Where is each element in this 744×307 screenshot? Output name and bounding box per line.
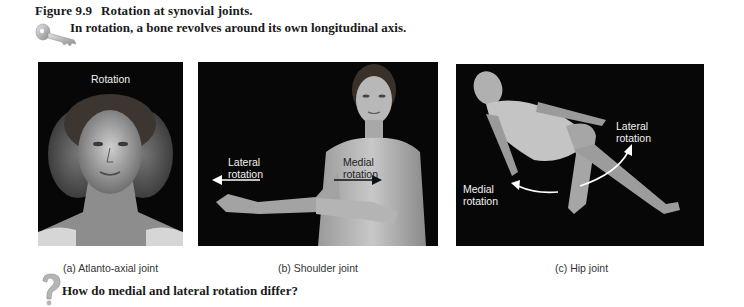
- key-point-text: In rotation, a bone revolves around its …: [70, 20, 406, 36]
- panel-hip-photo: Lateral rotation Medial rotation: [456, 64, 704, 246]
- medial-arrow-icon: [511, 180, 520, 190]
- caption-shoulder: (b) Shoulder joint: [278, 262, 358, 274]
- figure-title-text: Rotation at synovial joints.: [101, 3, 253, 18]
- caption-hip: (c) Hip joint: [555, 262, 608, 274]
- lateral-label-line2: rotation: [616, 132, 651, 144]
- lateral-arrow-icon: [624, 144, 632, 156]
- rotation-label: Rotation: [91, 73, 130, 85]
- caption-atlanto-axial: (a) Atlanto-axial joint: [63, 262, 158, 274]
- medial-label-line2: rotation: [343, 168, 378, 180]
- shoulder-rotation-illustration: [198, 62, 438, 246]
- medial-label-line2: rotation: [463, 195, 498, 207]
- figure-number: Figure 9.9: [35, 3, 92, 18]
- review-question: How do medial and lateral rotation diffe…: [62, 283, 298, 299]
- lateral-label-line1: Lateral: [616, 120, 648, 132]
- panel-shoulder-photo: Lateral rotation Medial rotation: [198, 62, 438, 246]
- medial-label-line1: Medial: [463, 183, 494, 195]
- lateral-arrow-icon: [212, 175, 222, 185]
- head-rotation-illustration: [38, 62, 183, 246]
- lateral-label-line1: Lateral: [228, 156, 260, 168]
- panel-atlanto-axial-photo: Rotation: [38, 62, 183, 246]
- medial-label-line1: Medial: [343, 156, 374, 168]
- hip-rotation-illustration: [456, 64, 704, 246]
- question-mark-icon: [38, 272, 64, 306]
- figure-title: Figure 9.9Rotation at synovial joints.: [35, 3, 253, 19]
- lateral-label-line2: rotation: [228, 168, 263, 180]
